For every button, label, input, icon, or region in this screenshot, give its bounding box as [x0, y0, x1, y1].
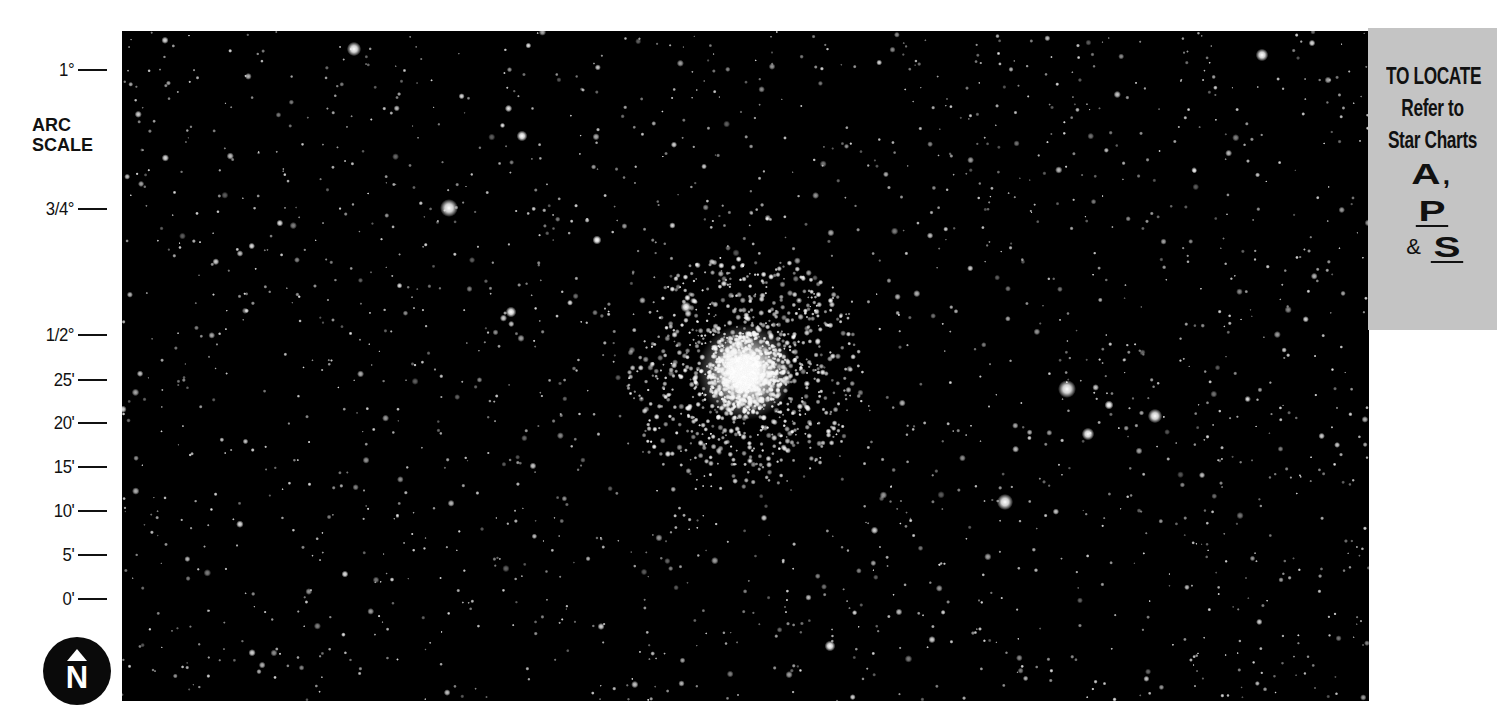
arc-scale-tick-label: 15'	[54, 456, 74, 478]
arc-scale-tick-mark	[78, 422, 107, 424]
arc-scale-tick-label: 1/2°	[46, 324, 74, 346]
arc-scale-tick-mark	[78, 466, 107, 468]
arc-scale-tick-mark	[78, 379, 107, 381]
arc-scale-tick-mark	[78, 334, 107, 336]
star-field-canvas	[122, 31, 1369, 701]
arc-scale-tick: 1°	[57, 60, 107, 80]
locate-refer-to: Refer to	[1386, 92, 1479, 124]
arc-scale-tick: 10'	[51, 501, 107, 521]
arc-scale-tick-mark	[78, 69, 107, 71]
arc-scale-tick-mark	[78, 598, 107, 600]
arc-scale-tick-label: 3/4°	[46, 198, 74, 220]
arc-scale-title-line2: SCALE	[32, 135, 93, 155]
arc-scale-tick-label: 5'	[62, 544, 74, 566]
locate-panel: TO LOCATE Refer to Star Charts A, P &S	[1368, 28, 1497, 330]
arc-scale-tick-mark	[78, 208, 107, 210]
arc-scale-tick: 20'	[51, 413, 107, 433]
arc-scale-title: ARC SCALE	[32, 115, 93, 155]
arc-scale-tick-label: 10'	[54, 500, 74, 522]
arc-scale-tick: 5'	[61, 545, 107, 565]
arc-scale-tick-label: 1°	[59, 59, 74, 81]
arc-scale-tick: 0'	[61, 589, 107, 609]
chart-ref-a-row: A,	[1368, 156, 1497, 193]
chart-ref-ampersand: &	[1406, 234, 1421, 259]
arc-scale-tick-label: 0'	[62, 588, 74, 610]
chart-ref-s-row: &S	[1368, 229, 1497, 265]
arc-scale-tick-mark	[78, 554, 107, 556]
arc-scale-title-line1: ARC	[32, 115, 93, 135]
north-letter: N	[43, 662, 111, 694]
locate-heading: TO LOCATE	[1386, 60, 1479, 92]
chart-ref-p-row: P	[1368, 193, 1497, 229]
chart-ref-s: S	[1431, 233, 1463, 263]
locate-star-charts: Star Charts	[1386, 124, 1479, 156]
star-field-photo	[122, 31, 1369, 701]
star-field-plate: ARC SCALE N TO LOCATE Refer to Star Char…	[0, 0, 1497, 713]
arc-scale-tick: 25'	[51, 370, 107, 390]
arc-scale-tick: 3/4°	[42, 199, 107, 219]
chart-ref-p: P	[1416, 197, 1448, 227]
north-indicator-icon: N	[43, 637, 111, 705]
arc-scale-tick-label: 20'	[54, 412, 74, 434]
chart-ref-comma: ,	[1443, 160, 1450, 190]
arc-scale-tick: 1/2°	[42, 325, 107, 345]
arc-scale-tick-label: 25'	[54, 369, 74, 391]
arc-scale-tick: 15'	[51, 457, 107, 477]
arc-scale-tick-mark	[78, 510, 107, 512]
chart-ref-a: A	[1411, 156, 1440, 192]
